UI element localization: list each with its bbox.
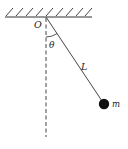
ceiling [5, 8, 92, 17]
angle-label: θ [49, 40, 55, 50]
ceiling-hatching [6, 8, 92, 16]
length-label: L [80, 61, 87, 72]
angle-arc [46, 34, 57, 37]
pendulum-rod [46, 17, 104, 104]
pivot-label: O [34, 19, 42, 30]
pendulum-bob [99, 99, 109, 109]
mass-label: m [112, 99, 120, 109]
pendulum-diagram: O θ L m [0, 0, 128, 149]
